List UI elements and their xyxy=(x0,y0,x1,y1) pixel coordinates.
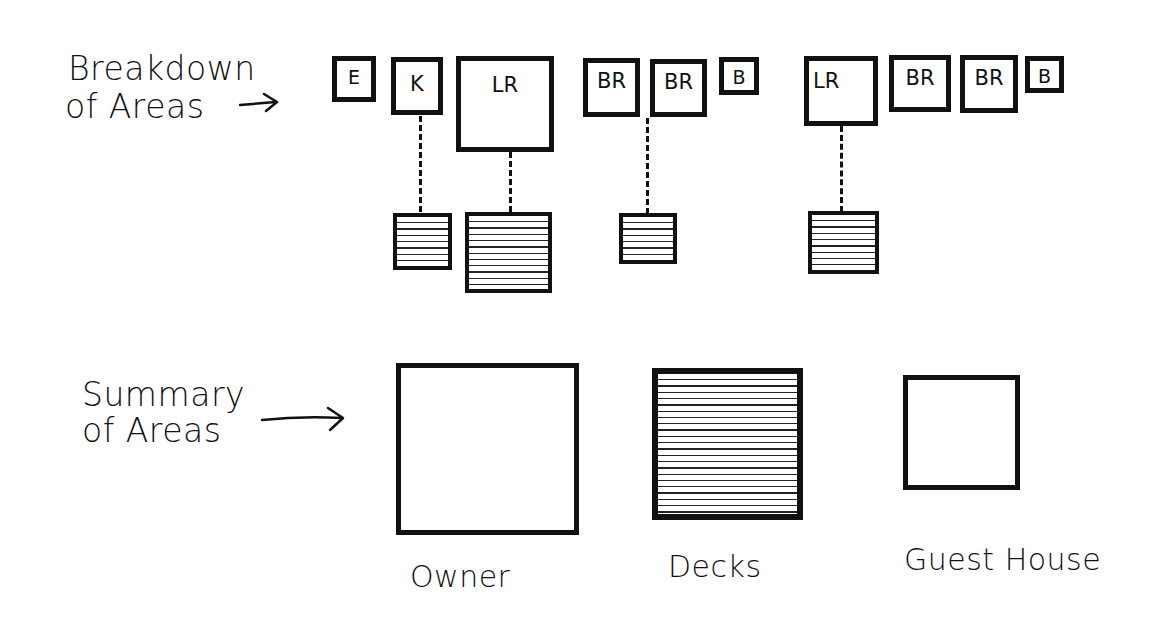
room-tag: BR xyxy=(894,66,946,90)
room-bedroom-box: BR xyxy=(960,55,1018,113)
summary-guest-house-caption: Guest House xyxy=(904,545,1101,575)
room-tag: BR xyxy=(655,70,702,94)
room-bedroom-box: BR xyxy=(889,55,951,112)
summary-label-line2: of Areas xyxy=(82,414,221,447)
room-bath-box: B xyxy=(1025,56,1064,93)
room-entry-box: E xyxy=(332,56,376,102)
room-bath-box: B xyxy=(719,57,759,95)
room-kitchen-box: K xyxy=(391,57,443,115)
room-living-box: LR xyxy=(456,56,554,152)
deck-bedroom-box xyxy=(619,213,677,264)
breakdown-label-line1: Breakdown xyxy=(68,52,256,85)
room-tag: BR xyxy=(588,69,635,93)
connector-living xyxy=(509,152,512,212)
deck-guest-box xyxy=(808,211,879,274)
room-tag: B xyxy=(724,66,754,88)
room-bedroom-box: BR xyxy=(650,59,707,117)
connector-kitchen xyxy=(419,116,422,212)
summary-guest-house-box xyxy=(903,375,1020,490)
room-tag: LR xyxy=(813,69,839,93)
deck-kitchen-box xyxy=(393,213,452,270)
deck-living-box xyxy=(465,212,552,293)
summary-owner-box xyxy=(396,363,579,535)
summary-label-line1: Summary xyxy=(82,378,245,411)
breakdown-label-line2: of Areas xyxy=(65,90,204,123)
right-arrow-icon xyxy=(238,92,280,114)
room-tag: B xyxy=(1030,65,1059,87)
room-living-box: LR xyxy=(804,56,878,126)
room-tag: BR xyxy=(965,66,1013,90)
summary-decks-box xyxy=(652,368,803,520)
room-bedroom-box: BR xyxy=(583,58,640,117)
summary-decks-caption: Decks xyxy=(668,552,762,582)
room-tag: K xyxy=(396,72,438,96)
connector-guest-living xyxy=(840,126,843,212)
summary-owner-caption: Owner xyxy=(410,562,510,592)
room-tag: E xyxy=(337,66,371,88)
connector-bedroom xyxy=(646,118,649,214)
right-arrow-icon xyxy=(260,404,346,434)
room-tag: LR xyxy=(461,73,549,97)
